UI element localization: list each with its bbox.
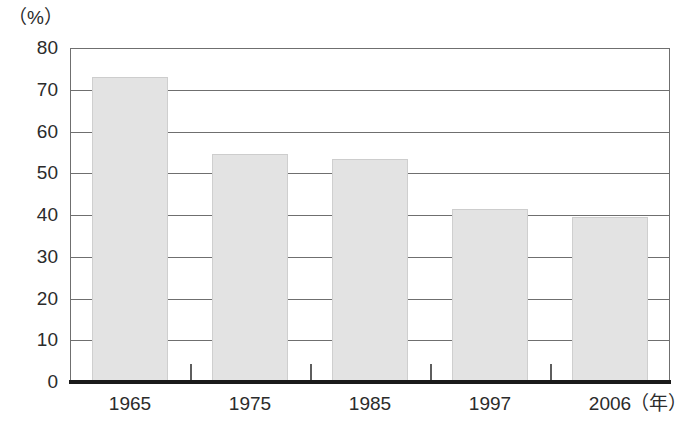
x-axis-tick-label: 1965 <box>75 394 185 413</box>
y-axis-tick-label: 60 <box>6 122 58 141</box>
x-axis-tick-label: 1975 <box>195 394 305 413</box>
x-axis-unit-label: （年） <box>630 394 687 413</box>
gridline <box>70 173 670 174</box>
gridline <box>70 132 670 133</box>
x-axis-tick-label: 1985 <box>315 394 425 413</box>
x-axis-minor-tick <box>310 364 312 380</box>
y-axis-tick-label: 20 <box>6 289 58 308</box>
y-axis-tick-label: 70 <box>6 80 58 99</box>
gridline <box>70 90 670 91</box>
y-axis-unit-label: （%） <box>8 2 63 29</box>
y-axis-tick-label: 10 <box>6 330 58 349</box>
bar-chart: （%） 80706050403020100 196519751985199720… <box>0 0 695 438</box>
y-axis-tick-label: 30 <box>6 247 58 266</box>
gridline <box>70 48 670 49</box>
gridline <box>70 299 670 300</box>
x-axis-minor-tick <box>190 364 192 380</box>
y-axis-tick-label: 0 <box>6 372 58 391</box>
gridline <box>70 215 670 216</box>
gridline <box>70 257 670 258</box>
x-axis-baseline <box>69 380 671 384</box>
gridline <box>70 340 670 341</box>
y-axis-tick-label: 50 <box>6 163 58 182</box>
x-axis-tick-label: 1997 <box>435 394 545 413</box>
y-axis-tick-label: 40 <box>6 205 58 224</box>
y-axis-tick-label: 80 <box>6 38 58 57</box>
x-axis-minor-tick <box>550 364 552 380</box>
x-axis-minor-tick <box>430 364 432 380</box>
